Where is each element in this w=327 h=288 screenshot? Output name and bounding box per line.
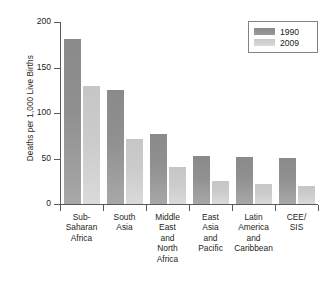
x-tick [146, 205, 147, 211]
bar-2009-4 [255, 184, 272, 204]
bar-2009-0 [83, 86, 100, 204]
y-tick-label: 50 [41, 153, 51, 164]
y-tick: 100 [54, 113, 60, 114]
x-axis-label-line: CEE/ [271, 212, 322, 222]
y-axis-title: Deaths per 1,000 Live Births [27, 23, 35, 193]
bar-1990-1 [107, 90, 124, 204]
bar-1990-3 [193, 156, 210, 204]
legend-label-2009: 2009 [280, 38, 299, 48]
bar-1990-5 [279, 158, 296, 204]
bar-2009-3 [212, 181, 229, 204]
bar-2009-2 [169, 167, 186, 204]
y-tick: 200 [54, 22, 60, 23]
x-tick [60, 205, 61, 211]
legend-label-1990: 1990 [280, 27, 299, 37]
legend-item-2009: 2009 [254, 37, 312, 48]
y-tick-label: 200 [37, 16, 51, 27]
bar-1990-2 [150, 134, 167, 204]
x-tick [318, 205, 319, 211]
bar-1990-4 [236, 157, 253, 204]
x-axis-label: CEE/SIS [271, 212, 322, 233]
bar-2009-5 [298, 186, 315, 204]
y-tick-label: 100 [37, 107, 51, 118]
x-axis-label-line: Africa [142, 254, 193, 264]
x-axis-label-line: Caribbean [228, 243, 279, 253]
y-tick-label: 150 [37, 62, 51, 73]
y-tick-label: 0 [46, 198, 51, 209]
y-axis-line [60, 22, 61, 205]
x-tick [232, 205, 233, 211]
x-tick [275, 205, 276, 211]
legend-item-1990: 1990 [254, 26, 312, 37]
x-axis-label-line: SIS [271, 222, 322, 232]
bar-1990-0 [64, 39, 81, 204]
legend: 1990 2009 [248, 21, 318, 53]
legend-swatch-2009-icon [254, 39, 275, 46]
x-axis-label-line: and [228, 233, 279, 243]
x-tick [189, 205, 190, 211]
y-tick: 50 [54, 159, 60, 160]
bar-chart: Deaths per 1,000 Live Births 05010015020… [0, 0, 327, 288]
x-tick [103, 205, 104, 211]
legend-swatch-1990-icon [254, 28, 275, 35]
x-axis-label-line: Africa [56, 233, 107, 243]
bar-2009-1 [126, 139, 143, 204]
y-tick: 150 [54, 68, 60, 69]
